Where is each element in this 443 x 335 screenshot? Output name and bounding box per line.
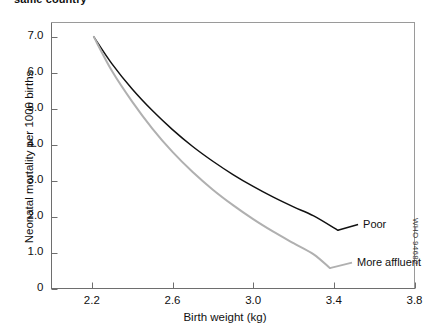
y-tick-label: 6.0 [14,65,44,77]
x-tick-label: 3.0 [233,294,273,306]
y-tick-label: 2.0 [14,209,44,221]
tick-marks [52,38,416,290]
series-leader-line [338,225,358,231]
x-tick-label: 3.4 [314,294,354,306]
y-tick-label: 0 [14,281,44,293]
y-tick-label: 7.0 [14,29,44,41]
series-leader-line [330,263,352,268]
series-paths [94,37,338,268]
chart-figure: Neonatal mortality per 1000 births Birth… [0,0,443,335]
series-curve-poor [94,37,338,230]
y-tick-label: 4.0 [14,137,44,149]
plot-canvas [0,0,443,335]
y-tick-label: 3.0 [14,173,44,185]
x-tick-label: 2.6 [153,294,193,306]
series-curve-more-affluent [94,37,330,268]
x-tick-label: 3.8 [395,294,435,306]
x-axis-title: Birth weight (kg) [145,311,305,323]
y-tick-label: 1.0 [14,245,44,257]
x-tick-label: 2.2 [72,294,112,306]
y-tick-label: 5.0 [14,101,44,113]
series-label-poor: Poor [363,218,386,230]
who-watermark: WHO 94682 [411,218,420,265]
leader-lines [330,225,358,268]
axis-lines [51,22,415,289]
